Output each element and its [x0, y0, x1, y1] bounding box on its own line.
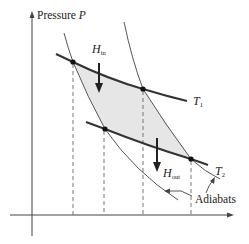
isotherm-t2-label: T2: [215, 165, 225, 179]
heat-in-label: Hin: [92, 43, 106, 57]
adiabats-label: Adiabats: [195, 194, 236, 206]
heat-out-subscript: out: [172, 173, 180, 180]
t2-symbol: T: [215, 164, 222, 178]
heat-in-subscript: in: [101, 49, 106, 56]
x-axis-arrowhead: [227, 213, 234, 218]
y-axis-label: Pressure P: [37, 10, 86, 22]
carnot-cycle-diagram: [0, 0, 249, 244]
y-axis-arrowhead: [30, 11, 35, 18]
t1-subscript: 1: [200, 101, 203, 108]
t1-symbol: T: [193, 94, 200, 108]
y-axis-label-text: Pressure: [37, 9, 79, 21]
heat-out-symbol: H: [163, 166, 172, 180]
cycle-shaded-area: [73, 62, 191, 159]
isotherm-t1-label: T1: [193, 95, 203, 109]
y-axis-symbol: P: [79, 9, 86, 21]
heat-in-symbol: H: [92, 42, 101, 56]
heat-out-label: Hout: [163, 167, 180, 181]
t2-subscript: 2: [222, 171, 225, 178]
